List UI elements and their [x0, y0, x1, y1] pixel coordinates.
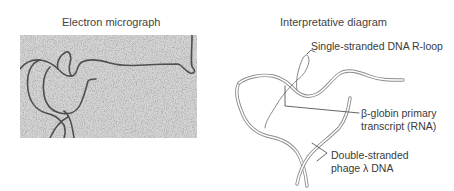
label-dsdna-line1: Double-stranded	[331, 149, 409, 162]
label-rna-line1: β-globin primary	[361, 107, 436, 120]
micrograph-title: Electron micrograph	[62, 16, 160, 28]
electron-micrograph-image	[20, 35, 197, 138]
single-stranded-r-loop	[265, 55, 309, 128]
label-dsdna-line2: phage λ DNA	[331, 162, 393, 175]
label-single-stranded-r-loop: Single-stranded DNA R-loop	[311, 40, 443, 53]
label-rna-line2: transcript (RNA)	[361, 120, 436, 133]
